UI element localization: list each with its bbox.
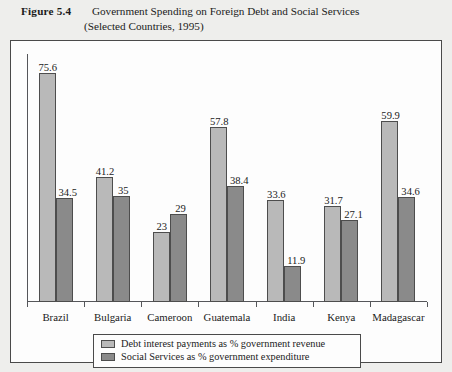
- bar-group: 33.611.9: [256, 54, 313, 302]
- x-axis-tick: [313, 302, 314, 307]
- bar-group: 31.727.1: [313, 54, 370, 302]
- figure-number: Figure 5.4: [21, 5, 71, 17]
- category-label-kenya: Kenya: [313, 309, 370, 327]
- bar-guatemala-series-2: 38.4: [227, 186, 244, 302]
- bar-value-label: 34.6: [401, 186, 420, 197]
- category-label-guatemala: Guatemala: [198, 309, 255, 327]
- category-label-brazil: Brazil: [27, 309, 84, 327]
- caption-title: Government Spending on Foreign Debt and …: [92, 5, 360, 17]
- bar-group: 41.235: [84, 54, 141, 302]
- legend-item-1: Social Services as % government expendit…: [101, 351, 353, 364]
- bar-group: 59.934.6: [370, 54, 427, 302]
- figure-container: Figure 5.4 Government Spending on Foreig…: [0, 0, 452, 372]
- bar-group: 57.838.4: [198, 54, 255, 302]
- legend-swatch-series-2: [101, 353, 115, 361]
- bar-bulgaria-series-2: 35: [113, 196, 130, 302]
- category-label-bulgaria: Bulgaria: [84, 309, 141, 327]
- bar-brazil-series-2: 34.5: [56, 198, 73, 302]
- x-axis-tick: [141, 302, 142, 307]
- chart-panel: 75.634.541.235232957.838.433.611.931.727…: [10, 40, 442, 363]
- bar-value-label: 41.2: [96, 166, 115, 177]
- chart-legend: Debt interest payments as % government r…: [93, 334, 361, 368]
- plot-area: 75.634.541.235232957.838.433.611.931.727…: [27, 54, 427, 302]
- legend-label-series-1: Debt interest payments as % government r…: [121, 338, 325, 350]
- category-label-madagascar: Madagascar: [370, 309, 427, 327]
- bar-value-label: 38.4: [230, 175, 249, 186]
- bar-value-label: 33.6: [267, 189, 286, 200]
- bar-groups: 75.634.541.235232957.838.433.611.931.727…: [27, 54, 427, 302]
- bar-value-label: 75.6: [39, 62, 58, 73]
- bar-kenya-series-2: 27.1: [341, 220, 358, 302]
- category-labels: BrazilBulgariaCameroonGuatemalaIndiaKeny…: [27, 309, 427, 327]
- bar-group: 75.634.5: [27, 54, 84, 302]
- bar-kenya-series-1: 31.7: [324, 206, 341, 302]
- bar-value-label: 27.1: [344, 209, 363, 220]
- bar-madagascar-series-2: 34.6: [398, 197, 415, 302]
- bar-value-label: 57.8: [210, 116, 229, 127]
- legend-swatch-series-1: [101, 340, 115, 348]
- bar-guatemala-series-1: 57.8: [210, 127, 227, 302]
- bar-value-label: 35: [118, 185, 129, 196]
- figure-caption: Figure 5.4 Government Spending on Foreig…: [21, 4, 431, 33]
- bar-value-label: 23: [156, 221, 167, 232]
- bar-cameroon-series-1: 23: [153, 232, 170, 302]
- x-axis-tick: [427, 302, 428, 307]
- bar-group: 2329: [141, 54, 198, 302]
- bar-madagascar-series-1: 59.9: [381, 121, 398, 302]
- x-axis-tick: [27, 302, 28, 307]
- bar-cameroon-series-2: 29: [170, 214, 187, 302]
- x-axis-tick: [198, 302, 199, 307]
- caption-line-1: Figure 5.4 Government Spending on Foreig…: [21, 4, 431, 19]
- category-label-india: India: [256, 309, 313, 327]
- bar-value-label: 11.9: [287, 255, 305, 266]
- bar-brazil-series-1: 75.6: [39, 73, 56, 302]
- bar-value-label: 29: [175, 203, 186, 214]
- legend-label-series-2: Social Services as % government expendit…: [121, 351, 309, 363]
- bar-value-label: 59.9: [381, 110, 400, 121]
- category-label-cameroon: Cameroon: [141, 309, 198, 327]
- legend-item-0: Debt interest payments as % government r…: [101, 338, 353, 351]
- x-axis-tick: [256, 302, 257, 307]
- bar-value-label: 31.7: [324, 195, 343, 206]
- bar-value-label: 34.5: [58, 187, 77, 198]
- x-axis-tick: [84, 302, 85, 307]
- bar-bulgaria-series-1: 41.2: [96, 177, 113, 302]
- caption-subtitle: (Selected Countries, 1995): [21, 19, 431, 34]
- bar-india-series-1: 33.6: [267, 200, 284, 302]
- x-axis-tick: [370, 302, 371, 307]
- bar-india-series-2: 11.9: [284, 266, 301, 302]
